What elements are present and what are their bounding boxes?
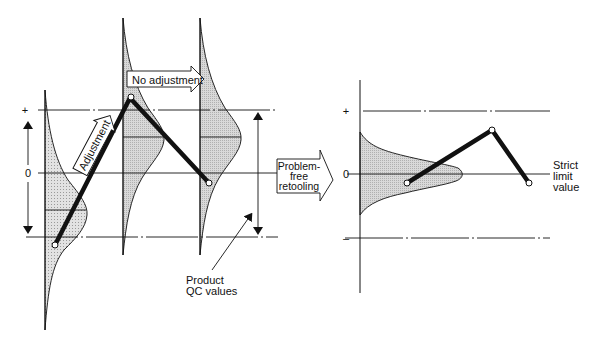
plus-label: + [22, 104, 28, 116]
annotation-pointer [212, 216, 250, 270]
right-qc-point-1 [404, 180, 410, 186]
qc-point-2 [128, 94, 134, 100]
right-minus-label: – [343, 232, 350, 244]
problem-free-retooling-arrow: Problem- free retooling [277, 150, 333, 201]
retooling-line-3: retooling [279, 180, 319, 192]
zero-label: 0 [25, 167, 31, 179]
strict-limit-line-3: value [553, 181, 579, 193]
qc-point-3 [206, 180, 212, 186]
right-qc-point-3 [526, 180, 532, 186]
right-qc-point-2 [489, 127, 495, 133]
left-chart: + 0 No adjustment Adjustment Product QC … [22, 18, 278, 330]
right-zero-label: 0 [343, 168, 349, 180]
narrow-distribution [360, 132, 462, 215]
right-chart: + 0 – Strict limit value [343, 80, 580, 293]
annotation-line-2: QC values [186, 285, 238, 297]
right-plus-label: + [343, 105, 349, 117]
qc-point-1 [52, 242, 58, 248]
no-adjustment-label: No adjustment [132, 74, 203, 86]
distribution-2 [123, 18, 164, 255]
process-diagram: + 0 No adjustment Adjustment Product QC … [0, 0, 600, 346]
distribution-3 [200, 18, 241, 255]
